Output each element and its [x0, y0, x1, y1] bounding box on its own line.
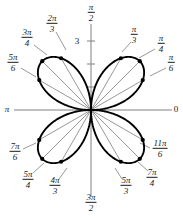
leader-line-5pi-over-6 [21, 68, 36, 77]
intersection-dot-7 [40, 157, 44, 161]
angle-label-pi-over-6-numerator: π [168, 53, 175, 63]
angle-label-pi-over-4-denominator: 4 [158, 44, 165, 54]
angle-label-5pi-over-6: 5π6 [7, 53, 18, 73]
axis-label-zero: 0 [174, 105, 179, 114]
angle-label-5pi-over-4-numerator: 5π [22, 170, 33, 180]
leader-line-pi-over-3 [122, 42, 131, 52]
angle-label-2pi-over-3: 2π3 [46, 14, 57, 34]
angle-label-3pi-over-4-fraction: 3π4 [21, 28, 32, 48]
angle-label-pi-over-6-fraction: π6 [168, 53, 175, 73]
axis-label-pi-over-2-denominator: 2 [88, 13, 95, 23]
angle-label-pi-over-4-numerator: π [158, 34, 165, 44]
angle-label-11pi-over-6-numerator: 11π [153, 139, 168, 149]
intersection-dot-2 [119, 56, 123, 60]
angle-label-11pi-over-6-fraction: 11π6 [153, 139, 168, 159]
angle-label-2pi-over-3-fraction: 2π3 [46, 14, 57, 34]
intersection-dot-8 [59, 160, 63, 164]
angle-label-7pi-over-6-fraction: 7π6 [9, 142, 20, 162]
angle-label-5pi-over-3: 5π3 [120, 176, 131, 196]
leader-line-5pi-over-4 [33, 163, 44, 173]
intersection-dot-11 [141, 138, 145, 142]
leader-line-pi-over-6 [150, 68, 166, 76]
angle-label-5pi-over-6-fraction: 5π6 [7, 53, 18, 73]
angle-label-pi-over-4: π4 [158, 34, 165, 54]
axis-label-pi-over-2-fraction: π 2 [88, 3, 95, 23]
angle-label-pi-over-6-denominator: 6 [168, 63, 175, 73]
axis-label-zero-text: 0 [174, 106, 179, 115]
angle-label-7pi-over-4: 7π4 [146, 168, 157, 188]
axis-label-pi-text: π [5, 106, 10, 115]
angle-label-5pi-over-3-fraction: 5π3 [120, 176, 131, 196]
intersection-dot-6 [37, 138, 41, 142]
intersection-dot-9 [119, 160, 123, 164]
angle-label-pi-over-3-fraction: π3 [131, 25, 138, 45]
angle-label-5pi-over-4-denominator: 4 [22, 180, 33, 190]
angle-label-7pi-over-6-denominator: 6 [9, 152, 20, 162]
angle-label-7pi-over-6: 7π6 [9, 142, 20, 162]
angle-label-2pi-over-3-denominator: 3 [46, 24, 57, 34]
leader-line-pi-over-4 [139, 49, 155, 58]
axis-label-pi: π [5, 105, 10, 114]
axis-label-3pi-over-2-numerator: 3π [85, 193, 96, 203]
radial-tick-label-3: 3 [75, 36, 80, 46]
axis-label-3pi-over-2: 3π 2 [85, 193, 96, 213]
angle-label-7pi-over-4-fraction: 7π4 [146, 168, 157, 188]
angle-label-7pi-over-4-denominator: 4 [146, 178, 157, 188]
leader-line-3pi-over-4 [34, 45, 47, 55]
polar-plot-figure: π6π4π32π33π45π67π65π44π35π37π411π6 3 0 π… [0, 0, 183, 218]
angle-label-4pi-over-3-fraction: 4π3 [49, 176, 60, 196]
angle-label-3pi-over-4-numerator: 3π [21, 28, 32, 38]
angle-label-5pi-over-3-denominator: 3 [120, 186, 131, 196]
angle-label-11pi-over-6: 11π6 [153, 139, 168, 159]
angle-label-5pi-over-3-numerator: 5π [120, 176, 131, 186]
angle-label-7pi-over-4-numerator: 7π [146, 168, 157, 178]
axis-label-3pi-over-2-fraction: 3π 2 [85, 193, 96, 213]
angle-label-pi-over-4-fraction: π4 [158, 34, 165, 54]
angle-label-pi-over-3-numerator: π [131, 25, 138, 35]
angle-label-4pi-over-3-denominator: 3 [49, 186, 60, 196]
angle-label-pi-over-3-denominator: 3 [131, 35, 138, 45]
angle-label-pi-over-3: π3 [131, 25, 138, 45]
angle-label-5pi-over-4-fraction: 5π4 [22, 170, 33, 190]
intersection-dot-1 [138, 59, 142, 63]
angle-label-5pi-over-4: 5π4 [22, 170, 33, 190]
angle-label-4pi-over-3-numerator: 4π [49, 176, 60, 186]
axis-label-pi-over-2-numerator: π [88, 3, 95, 13]
angle-label-4pi-over-3: 4π3 [49, 176, 60, 196]
angle-label-5pi-over-6-denominator: 6 [7, 63, 18, 73]
intersection-dot-5 [37, 78, 41, 82]
intersection-dot-10 [138, 157, 142, 161]
angle-label-11pi-over-6-denominator: 6 [153, 149, 168, 159]
angle-label-3pi-over-4-denominator: 4 [21, 38, 32, 48]
angle-label-3pi-over-4: 3π4 [21, 28, 32, 48]
intersection-dot-4 [40, 59, 44, 63]
axis-label-pi-over-2: π 2 [88, 3, 95, 23]
axis-label-3pi-over-2-denominator: 2 [85, 203, 96, 213]
leader-line-2pi-over-3 [56, 32, 66, 50]
angle-label-pi-over-6: π6 [168, 53, 175, 73]
leader-line-7pi-over-6 [23, 143, 36, 149]
angle-label-7pi-over-6-numerator: 7π [9, 142, 20, 152]
angle-label-2pi-over-3-numerator: 2π [46, 14, 57, 24]
intersection-dot-3 [59, 56, 63, 60]
intersection-dot-0 [141, 78, 145, 82]
angle-label-5pi-over-6-numerator: 5π [7, 53, 18, 63]
